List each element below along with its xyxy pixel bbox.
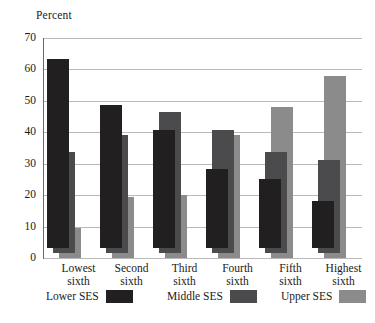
bar-group xyxy=(100,38,153,258)
y-tick-label-40: 40 xyxy=(0,126,36,138)
y-tick-label-70: 70 xyxy=(0,32,36,44)
y-tick-label-10: 10 xyxy=(0,221,36,233)
bar xyxy=(47,59,69,248)
bar-group xyxy=(47,38,100,258)
gridline-0 xyxy=(44,258,362,259)
chart-legend: Lower SESMiddle SESUpper SES xyxy=(0,288,375,306)
category-label-line: sixth xyxy=(313,275,375,288)
grouped-bar-chart: Percent 010203040506070 LowestsixthSecon… xyxy=(0,0,375,323)
legend-swatch xyxy=(230,290,257,303)
y-axis-tick-labels: 010203040506070 xyxy=(0,0,40,323)
y-tick-label-0: 0 xyxy=(0,252,36,264)
y-tick-label-30: 30 xyxy=(0,158,36,170)
bar-group xyxy=(312,38,365,258)
bar-group xyxy=(153,38,206,258)
legend-label: Lower SES xyxy=(46,290,99,302)
bar-group xyxy=(259,38,312,258)
legend-label: Upper SES xyxy=(281,290,332,302)
plot-area xyxy=(44,38,362,258)
y-tick-label-50: 50 xyxy=(0,95,36,107)
legend-label: Middle SES xyxy=(167,290,223,302)
legend-item: Lower SES xyxy=(46,288,133,304)
legend-swatch xyxy=(106,290,133,303)
y-axis-title: Percent xyxy=(36,9,72,21)
legend-swatch xyxy=(339,290,366,303)
bar xyxy=(153,130,175,248)
category-label: Highestsixth xyxy=(313,262,375,288)
bar xyxy=(100,105,122,248)
bar xyxy=(312,201,334,248)
bar xyxy=(206,169,228,248)
y-tick-label-60: 60 xyxy=(0,63,36,75)
legend-item: Upper SES xyxy=(281,288,366,304)
bar-group xyxy=(206,38,259,258)
bar xyxy=(259,179,281,248)
y-tick-label-20: 20 xyxy=(0,189,36,201)
category-label-line: Highest xyxy=(313,262,375,275)
legend-item: Middle SES xyxy=(167,288,257,304)
